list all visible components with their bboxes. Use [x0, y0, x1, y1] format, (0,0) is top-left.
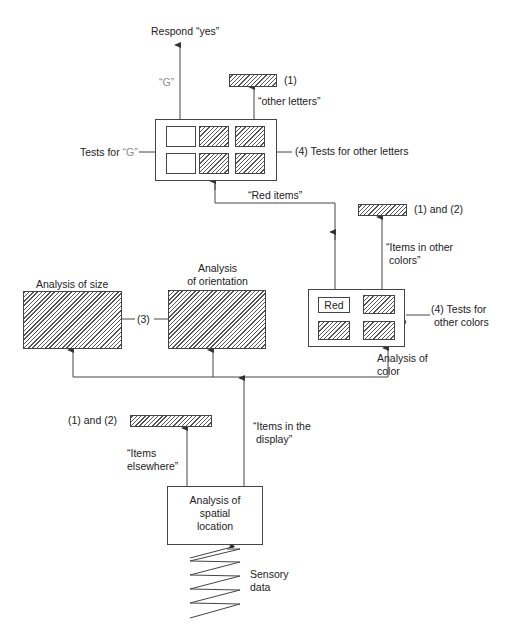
tests-for-g-label: Tests for “G” [80, 146, 138, 159]
items-elsewhere-label: “Itemselsewhere” [127, 447, 178, 473]
color-test-cell-2 [318, 321, 350, 340]
discard-bar-colors [358, 204, 407, 216]
letter-test-cell-4 [235, 153, 265, 174]
other-letters-label: “other letters” [258, 95, 320, 108]
discard-bar-letters [229, 74, 277, 87]
respond-yes-label: Respond “yes” [151, 25, 219, 38]
discard-ref-colors: (1) and (2) [414, 203, 463, 216]
spatial-location-label: Analysis ofspatiallocation [167, 494, 263, 533]
color-test-cell-3 [363, 321, 395, 340]
link-3-label: (3) [137, 313, 150, 326]
analysis-orientation-label: Analysisof orientation [165, 262, 270, 288]
letter-test-cell-1 [199, 126, 229, 147]
discard-ref-elsewhere: (1) and (2) [68, 414, 117, 427]
discard-bar-elsewhere [130, 415, 212, 427]
g-test-cell-2 [166, 153, 196, 174]
analysis-size-box [23, 291, 122, 349]
sensory-data-label: Sensorydata [250, 568, 289, 594]
g-output-label: “G” [159, 76, 174, 89]
color-test-cell-1 [363, 295, 395, 314]
analysis-size-label: Analysis of size [36, 278, 108, 291]
analysis-orientation-box [168, 290, 266, 349]
g-test-cell-1 [166, 126, 196, 147]
items-display-label: “Items in thedisplay” [253, 420, 311, 446]
analysis-color-label: Analysis ofcolor [377, 352, 428, 378]
items-other-colors-label: “Items in othercolors” [386, 241, 453, 267]
tests-other-colors-label: (4) Tests forother colors [431, 303, 489, 329]
red-test-cell: Red [318, 297, 350, 313]
letter-test-cell-3 [235, 126, 265, 147]
letter-test-cell-2 [199, 153, 229, 174]
discard-ref-letters: (1) [284, 74, 297, 87]
tests-other-letters-label: (4) Tests for other letters [295, 145, 409, 158]
red-items-label: “Red items” [248, 189, 302, 202]
